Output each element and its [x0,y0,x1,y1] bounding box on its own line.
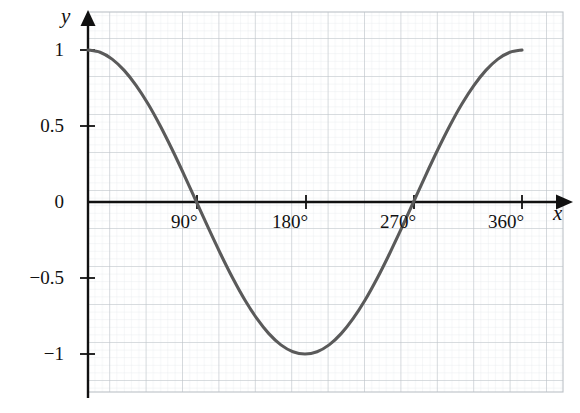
x-axis-label: x [553,203,562,224]
y-axis-label: y [61,6,70,27]
x-tick-label-90: 90° [171,212,198,231]
x-tick-label-180: 180° [272,212,308,231]
plot-canvas [0,0,580,413]
y-tick-label-neg-0-5: −0.5 [4,268,64,287]
x-tick-label-360: 360° [488,212,524,231]
x-tick-label-270: 270° [380,212,416,231]
cosine-graph-figure: 1 0.5 0 −0.5 −1 90° 180° 270° 360° y x [0,0,580,413]
y-tick-label-0: 0 [30,192,64,211]
y-tick-label-1: 1 [30,40,64,59]
y-tick-label-0-5: 0.5 [14,116,64,135]
y-tick-label-neg-1: −1 [20,344,64,363]
